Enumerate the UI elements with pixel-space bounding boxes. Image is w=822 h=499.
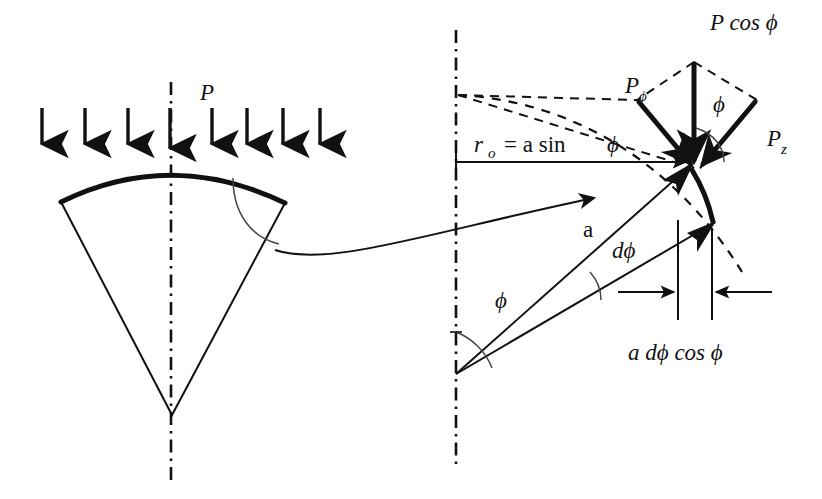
r0-label-group: r o = a sin ϕ xyxy=(474,132,619,161)
phi-label: ϕ xyxy=(495,288,507,313)
load-label-P: P xyxy=(199,80,214,105)
parallelogram-phi-label: ϕ xyxy=(713,92,725,117)
shell-element-arc xyxy=(692,170,713,222)
P-z-label-main: P xyxy=(766,126,781,151)
figure-root: P r o = a sin xyxy=(0,0,822,499)
r0-label-r: r xyxy=(474,132,484,157)
P-phi-label-main: P xyxy=(624,73,639,98)
r0-label-subscript: o xyxy=(488,145,496,161)
r0-label-equals-a-sin: = a sin xyxy=(504,132,566,157)
parallelogram-tail-dashed xyxy=(458,95,637,100)
detail-leader-arrow xyxy=(275,198,594,255)
radius-a-label: a xyxy=(583,217,593,242)
P-phi-label-sub: ϕ xyxy=(639,88,647,104)
dphi-label: dϕ xyxy=(612,238,636,263)
P-z-vector xyxy=(703,102,755,164)
element-width-label: a dϕ cos ϕ xyxy=(628,340,723,365)
P-z-label-group: P z xyxy=(766,126,787,157)
parallelogram-edge-top-right xyxy=(694,62,757,100)
dphi-angle-arc xyxy=(590,272,601,300)
force-diagram-svg: P r o = a sin xyxy=(0,0,822,499)
element-width-dimension: a dϕ cos ϕ xyxy=(618,220,772,365)
pressure-load-arrows xyxy=(42,108,320,148)
P-cos-phi-label: P cos ϕ xyxy=(709,10,778,35)
cap-meridian-edges xyxy=(61,202,285,415)
cap-outer-arc xyxy=(61,175,285,203)
P-z-label-sub: z xyxy=(780,141,787,157)
left-panel-group: P xyxy=(42,80,320,480)
right-panel-group: r o = a sin ϕ ϕ a dϕ xyxy=(450,10,787,470)
